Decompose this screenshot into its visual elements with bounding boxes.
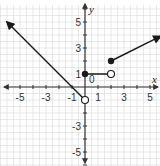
- origin-label: 0: [89, 74, 95, 85]
- y-tick-label: 5: [75, 17, 81, 28]
- y-axis-label: y: [88, 3, 94, 15]
- x-tick-label: -3: [42, 92, 51, 103]
- x-tick-label: 5: [147, 92, 153, 103]
- closed-endpoint: [82, 71, 88, 77]
- x-tick-label: -1: [68, 92, 77, 103]
- y-tick-label: -5: [72, 147, 81, 158]
- x-tick-label: 1: [95, 92, 101, 103]
- open-endpoint: [82, 97, 89, 104]
- open-endpoint: [108, 71, 115, 78]
- x-tick-label: -5: [16, 92, 25, 103]
- y-tick-label: -3: [72, 121, 81, 132]
- x-tick-label: 3: [121, 92, 127, 103]
- series-line: [111, 36, 160, 61]
- piecewise-function-graph: -5-3-1135531-3-50yx: [0, 0, 160, 166]
- y-tick-label: 1: [75, 69, 81, 80]
- closed-endpoint: [108, 58, 114, 64]
- x-axis-label: x: [151, 73, 157, 85]
- y-tick-label: 3: [75, 43, 81, 54]
